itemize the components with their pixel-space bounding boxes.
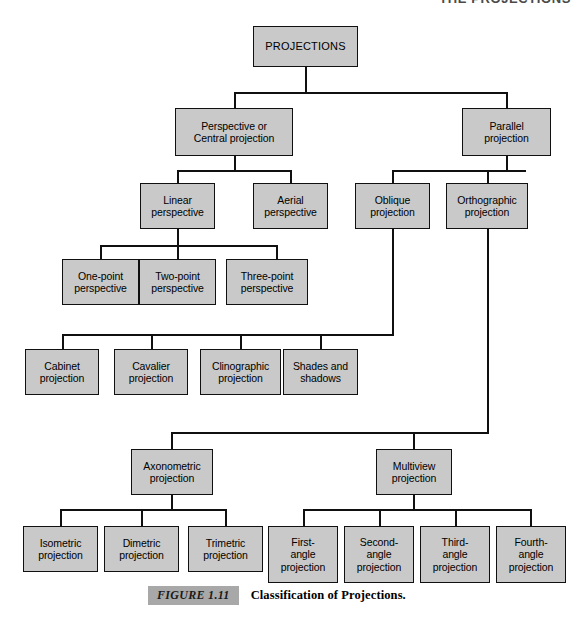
node-label: Isometric projection <box>36 537 85 562</box>
node-label: Trimetric projection <box>201 537 250 562</box>
node-label: Two-point perspective <box>149 270 206 295</box>
edge-oblique-to-cabinet <box>62 334 64 349</box>
node-linear-perspective[interactable]: Linear perspective <box>140 183 215 229</box>
node-trimetric-projection[interactable]: Trimetric projection <box>188 526 263 572</box>
node-label: Aerial perspective <box>262 194 319 219</box>
edge-oblique-to-cavalier <box>151 334 153 349</box>
node-label: Second- angle projection <box>355 536 404 573</box>
node-projections[interactable]: PROJECTIONS <box>253 26 358 67</box>
node-label: Linear perspective <box>149 194 206 219</box>
node-cabinet-projection[interactable]: Cabinet projection <box>25 349 99 395</box>
node-label: PROJECTIONS <box>263 40 347 52</box>
node-label: Clinographic projection <box>210 360 271 385</box>
node-label: First- angle projection <box>279 536 328 573</box>
edge-multiview-to-first-angle <box>303 509 305 526</box>
edge-root-to-perspective <box>234 92 236 109</box>
node-label: Cavalier projection <box>127 360 176 385</box>
node-three-point-perspective[interactable]: Three-point perspective <box>226 259 308 305</box>
node-label: Third- angle projection <box>431 536 480 573</box>
node-orthographic-projection[interactable]: Orthographic projection <box>446 183 528 229</box>
node-label: Parallel projection <box>482 120 531 145</box>
edge-parallel-to-oblique <box>392 170 394 184</box>
edge-axonometric-bar <box>60 509 227 511</box>
edge-perspective-to-aerial <box>290 170 292 184</box>
edge-multiview-to-second-angle <box>379 509 381 526</box>
node-oblique-projection[interactable]: Oblique projection <box>355 183 430 229</box>
node-shades-and-shadows[interactable]: Shades and shadows <box>283 349 358 395</box>
edge-root-to-parallel <box>506 92 508 109</box>
node-fourth-angle-projection[interactable]: Fourth- angle projection <box>496 526 566 583</box>
edge-oblique-bar <box>62 334 394 336</box>
node-clinographic-projection[interactable]: Clinographic projection <box>200 349 281 395</box>
node-parallel-projection[interactable]: Parallel projection <box>462 108 551 156</box>
edge-orthographic-to-multiview <box>413 432 415 449</box>
edge-multiview-to-third-angle <box>455 509 457 526</box>
node-axonometric-projection[interactable]: Axonometric projection <box>131 449 213 495</box>
edge-oblique-to-clinographic <box>240 334 242 349</box>
node-label: Multiview projection <box>390 460 439 485</box>
node-label: Orthographic projection <box>455 194 519 219</box>
edge-linear-bar <box>100 245 278 247</box>
figure-caption: FIGURE 1.11 Classification of Projection… <box>148 586 406 605</box>
edge-perspective-to-linear <box>177 170 179 184</box>
node-third-angle-projection[interactable]: Third- angle projection <box>420 526 490 583</box>
edge-multiview-to-fourth-angle <box>530 509 532 526</box>
node-label: Three-point perspective <box>239 270 296 295</box>
edge-axonometric-to-trimetric <box>225 509 227 526</box>
node-perspective-or-central-projection[interactable]: Perspective or Central projection <box>175 108 293 156</box>
edge-multiview-bar <box>303 509 532 511</box>
edge-axonometric-to-dimetric <box>141 509 143 526</box>
node-aerial-perspective[interactable]: Aerial perspective <box>253 183 328 229</box>
figure-number-tag: FIGURE 1.11 <box>148 586 239 605</box>
edge-linear-to-three-point <box>276 245 278 260</box>
edge-linear-to-two-point <box>177 245 179 260</box>
node-isometric-projection[interactable]: Isometric projection <box>23 526 98 572</box>
edge-axonometric-to-isometric <box>60 509 62 526</box>
node-label: Perspective or Central projection <box>192 120 277 145</box>
edge-oblique-to-shades <box>320 334 322 349</box>
edge-root-stem <box>305 66 307 94</box>
node-multiview-projection[interactable]: Multiview projection <box>376 449 452 495</box>
node-dimetric-projection[interactable]: Dimetric projection <box>104 526 179 572</box>
node-label: Axonometric projection <box>141 460 202 485</box>
node-label: Dimetric projection <box>117 537 166 562</box>
edge-orthographic-drop <box>487 228 489 434</box>
edge-orthographic-to-axonometric <box>171 432 173 449</box>
edge-oblique-drop <box>392 228 394 336</box>
edge-parallel-to-orthographic <box>487 170 489 184</box>
edge-orthographic-bar <box>171 432 489 434</box>
node-second-angle-projection[interactable]: Second- angle projection <box>344 526 414 583</box>
node-label: Fourth- angle projection <box>507 536 556 573</box>
edge-root-bar <box>234 92 508 94</box>
projections-tree-diagram: PROJECTIONS Perspective or Central proje… <box>0 0 584 636</box>
edge-perspective-bar <box>177 170 292 172</box>
node-label: Oblique projection <box>368 194 417 219</box>
node-two-point-perspective[interactable]: Two-point perspective <box>139 259 216 305</box>
figure-caption-title: Classification of Projections. <box>251 588 406 603</box>
edge-parallel-bar <box>392 170 526 172</box>
edge-linear-to-one-point <box>100 245 102 260</box>
node-label: Cabinet projection <box>38 360 87 385</box>
figure-page: THE PROJECTIONS <box>0 0 584 636</box>
node-label: Shades and shadows <box>291 360 350 385</box>
node-label: One-point perspective <box>72 270 129 295</box>
node-cavalier-projection[interactable]: Cavalier projection <box>114 349 188 395</box>
node-one-point-perspective[interactable]: One-point perspective <box>62 259 139 305</box>
node-first-angle-projection[interactable]: First- angle projection <box>268 526 338 583</box>
